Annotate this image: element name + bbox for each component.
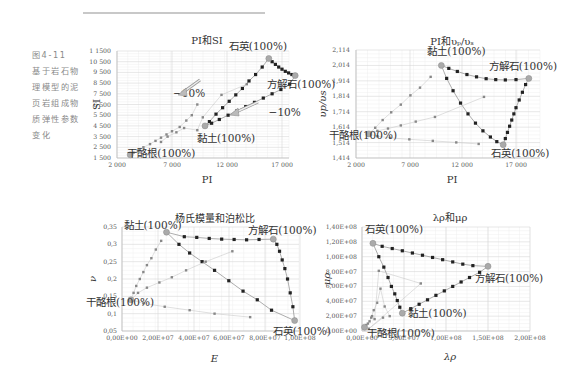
data-point [256,298,259,301]
data-point [234,93,237,96]
data-point [524,83,527,86]
data-point [270,309,273,312]
data-point [381,245,384,248]
annotation-label: −10% [269,106,301,118]
annotation-label: 石英(100%) [273,325,331,337]
data-point [241,290,244,293]
x-axis-label: PI [202,174,213,185]
data-point [185,269,187,271]
data-point [183,127,185,129]
y-tick-label: 0,00E+00 [326,327,357,334]
y-tick-label: 9 500 [93,68,111,75]
y-tick-label: 1,40E+08 [326,223,357,230]
data-point [379,287,381,289]
data-point [262,96,265,99]
y-tick-label: 1,914 [332,77,350,84]
y-tick-label: 3 500 [93,133,111,140]
data-point [283,267,286,270]
x-tick-label: 7 000 [401,161,419,168]
data-point [460,280,463,283]
data-point [150,257,152,259]
data-point [468,276,471,279]
data-point [400,124,402,126]
data-point [391,247,394,250]
chart-title: PI和SI [191,35,223,46]
chart-pi-si: 1 150010 5009 5008 5007 5006 5005 5004 5… [0,0,573,381]
annotation-label: 石英(100%) [491,147,549,159]
y-tick-label: 8 500 [93,79,111,86]
data-point [204,260,206,262]
chart-title: λρ和μρ [433,212,468,223]
endmember-marker [292,318,298,324]
y-tick-label: 0,1 [107,310,117,317]
data-point [261,65,264,68]
y-tick-label: 1,414 [332,154,350,161]
annotation-label: 方解石(100%) [267,78,335,90]
y-tick-label: 10 500 [89,58,111,65]
data-point [188,309,190,311]
data-point [177,243,180,246]
series-line [373,243,488,266]
y-tick-label: 2,114 [332,46,350,53]
data-point [158,281,160,283]
data-point [383,305,385,307]
chart-2: 0,350,30,250,20,150,10,050,00E+002,00E+0… [86,212,331,364]
data-point [132,292,134,294]
data-point [160,141,162,143]
data-point [508,125,511,128]
data-point [441,258,444,261]
y-tick-label: 1 1500 [89,47,111,54]
y-axis-label: ν [87,276,98,282]
data-point [510,118,513,121]
data-point [400,103,402,105]
data-point [471,264,474,267]
data-point [291,305,294,308]
y-tick-label: 0,2 [107,275,117,282]
data-point [466,112,469,115]
data-point [447,67,450,70]
data-point [465,73,468,76]
data-point [227,114,230,117]
annotation-label: 方解石(100%) [248,224,316,236]
y-tick-label: 5 500 [93,111,111,118]
data-point [461,263,464,266]
data-point [408,138,410,140]
data-point [249,316,251,318]
x-tick-label: 2 000 [347,161,365,168]
annotation-label: 石英(100%) [365,223,423,235]
endmember-marker [399,310,405,316]
data-point [227,279,230,282]
data-point [431,256,434,259]
data-point [521,91,524,94]
data-point [149,143,151,145]
data-point [390,285,393,288]
data-point [432,140,434,142]
y-tick-label: 1,814 [332,92,350,99]
endmember-marker [270,236,276,242]
x-tick-label: 1,50E+08 [472,334,503,341]
data-point [386,276,389,279]
y-tick-label: 4,00E+07 [326,297,357,304]
x-axis-label: λρ [443,351,456,362]
x-tick-label: 6,00E+07 [213,334,244,341]
data-point [485,77,488,80]
data-point [514,106,517,109]
data-point [195,236,198,239]
endmember-marker [526,75,532,81]
data-point [171,130,173,132]
annotation-label: 黏土(100%) [427,45,485,57]
data-point [213,312,215,314]
data-point [382,266,385,269]
x-tick-label: 12 000 [451,161,473,168]
data-point [277,65,280,68]
data-point [443,289,446,292]
data-point [389,315,391,317]
data-point [185,119,187,121]
data-point [429,76,431,78]
data-point [213,269,216,272]
data-point [489,135,492,138]
data-point [160,136,162,138]
data-point [275,243,278,246]
data-point [455,141,457,143]
data-point [477,143,479,145]
